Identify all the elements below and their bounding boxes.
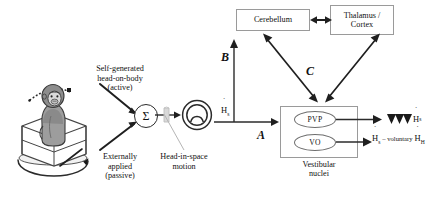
vo-output-arrow-icon	[336, 138, 372, 147]
vo-label: VO	[309, 138, 321, 147]
vestibular-line1: Vestibular	[282, 160, 356, 169]
pvp-neuron-ellipse[interactable]: PVP	[294, 111, 336, 128]
thalamus-cortex-line1: Thalamus /	[344, 11, 381, 20]
cerebellum-box[interactable]: Cerebellum	[236, 9, 310, 31]
cerebellum-label: Cerebellum	[254, 15, 292, 24]
cerebellum-thalamus-bidirectional-arrow	[310, 12, 332, 28]
monkey-figure-icon	[40, 85, 65, 147]
pvp-output-arrow-icon	[336, 115, 382, 124]
sigma-symbol: Σ	[143, 109, 150, 124]
canal-callout-line2: motion	[148, 162, 220, 172]
vo-h2-symbol: H	[415, 133, 421, 143]
active-input-arrow-icon	[100, 84, 138, 115]
diagram-canvas: Self-generated head-on-body (active) Ext…	[0, 0, 446, 198]
pathway-a-label: A	[257, 128, 265, 143]
pathway-c-label: C	[306, 64, 314, 79]
pvp-h-dot-accent: ˙	[415, 109, 418, 113]
passive-input-arrow-icon	[100, 122, 138, 151]
vo-neuron-ellipse[interactable]: VO	[294, 134, 336, 151]
vestibular-nuclei-caption: Vestibular nuclei	[282, 160, 356, 179]
vo-minus-voluntary-text: – voluntary	[380, 135, 414, 142]
vo-output-expression: ˙ Hs– voluntary ˙ HH	[372, 133, 425, 145]
passive-label-line3: (passive)	[85, 171, 155, 181]
vo-h-dot-accent: ˙	[374, 128, 377, 132]
canal-callout-leader	[160, 112, 192, 154]
pvp-h-subscript: s	[419, 116, 421, 122]
vo-h-symbol: H	[372, 133, 378, 143]
vo-h2-subscript: H	[421, 139, 425, 145]
thalamus-cortex-line2: Cortex	[351, 20, 373, 29]
canal-callout-line1: Head-in-space	[148, 152, 220, 162]
three-down-triangles-icon	[386, 112, 412, 125]
vo-h2-dot-accent: ˙	[416, 128, 419, 132]
pathway-c-arrows	[258, 30, 398, 106]
pvp-output-expression: ˙ Hs	[386, 112, 421, 125]
thalamus-vestibular-arrow-icon	[325, 34, 380, 103]
passive-source-arrow	[58, 140, 104, 170]
vestibular-line2: nuclei	[282, 169, 356, 178]
pathway-b-label: B	[221, 50, 229, 65]
pvp-label: PVP	[308, 115, 323, 124]
pvp-h-symbol: H	[413, 114, 419, 124]
head-in-space-callout-label: Head-in-space motion	[148, 152, 220, 171]
